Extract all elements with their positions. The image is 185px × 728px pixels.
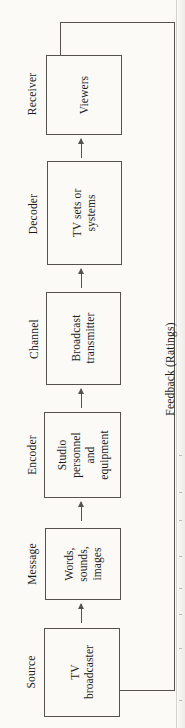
feedback-segment-source-in	[119, 690, 175, 691]
node-box-receiver: Viewers	[46, 55, 122, 135]
node-text-message: Words, sounds, images	[62, 546, 104, 582]
page-edge-shadow	[176, 0, 185, 728]
node-text-decoder: TV sets or systems	[70, 189, 98, 238]
node-text-channel: Broadcast transmitter	[69, 313, 97, 364]
node-text-receiver: Viewers	[77, 76, 91, 114]
node-text-encoder: Studio personnel and equipment	[54, 430, 110, 479]
scan-speck	[179, 492, 182, 493]
stage-caption-channel: Channel	[28, 301, 40, 377]
stage-caption-decoder: Decoder	[27, 176, 39, 252]
feedback-segment-top	[60, 22, 175, 23]
arrow-source-to-message	[81, 604, 82, 623]
scan-speck	[179, 614, 182, 615]
feedback-label: Feedback (Ratings)	[164, 284, 176, 454]
node-box-decoder: TV sets or systems	[47, 161, 122, 265]
scan-speck	[179, 588, 182, 589]
arrow-encoder-to-channel	[81, 389, 82, 408]
node-box-encoder: Studio personnel and equipment	[44, 412, 121, 498]
page-edge-rule	[176, 0, 177, 728]
stage-caption-source: Source	[25, 634, 37, 710]
node-box-channel: Broadcast transmitter	[46, 292, 121, 385]
scan-speck	[179, 700, 182, 701]
scan-speck	[179, 520, 182, 521]
node-box-source: TV broadcaster	[44, 628, 120, 717]
scan-speck	[179, 455, 182, 456]
scan-speck	[179, 648, 182, 649]
arrow-message-to-encoder	[81, 502, 82, 521]
scan-speck	[179, 556, 182, 557]
node-text-source: TV broadcaster	[68, 645, 96, 699]
stage-caption-message: Message	[26, 526, 38, 602]
arrow-decoder-to-receiver	[81, 139, 82, 158]
stage-caption-encoder: Encoder	[26, 417, 38, 493]
node-box-message: Words, sounds, images	[45, 528, 121, 600]
stage-caption-receiver: Receiver	[26, 56, 38, 132]
feedback-segment-receiver-up	[60, 22, 61, 56]
diagram-page: Viewers Receiver TV sets or systems Deco…	[0, 0, 185, 728]
arrow-channel-to-decoder	[81, 269, 82, 288]
